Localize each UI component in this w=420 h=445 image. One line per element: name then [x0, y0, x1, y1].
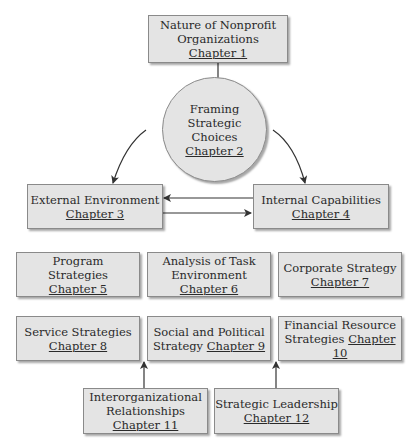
node-chapter-12: Strategic Leadership Chapter 12	[214, 388, 339, 434]
arrow-ch2-ch4	[273, 130, 305, 183]
node-label: Environment	[171, 268, 247, 282]
node-label: Strategic	[188, 116, 242, 130]
node-label: Nature of Nonprofit	[160, 18, 276, 32]
node-label: Service Strategies	[24, 325, 131, 339]
chapter-link: Chapter 5	[49, 282, 107, 296]
node-label-wrap: Strategies Chapter 10	[279, 332, 401, 360]
node-label: Organizations	[177, 32, 259, 46]
chapter-link: Chapter 1	[189, 46, 247, 60]
node-chapter-9: Social and Political Strategy Chapter 9	[147, 316, 271, 361]
arrow-ch2-ch3	[113, 130, 146, 183]
node-label: Strategy	[153, 339, 203, 353]
node-label: Strategies	[284, 332, 344, 346]
node-chapter-6: Analysis of Task Environment Chapter 6	[147, 252, 271, 297]
node-chapter-2: Framing Strategic Choices Chapter 2	[162, 77, 267, 182]
node-label: Financial Resource	[284, 318, 396, 332]
chapter-link: Chapter 4	[292, 207, 350, 221]
node-label: Corporate Strategy	[283, 261, 396, 275]
chapter-link: Chapter 11	[113, 418, 179, 432]
node-label: Relationships	[106, 404, 185, 418]
node-chapter-7: Corporate Strategy Chapter 7	[278, 252, 402, 297]
node-label: Social and Political	[153, 325, 264, 339]
node-chapter-5: Program Strategies Chapter 5	[16, 252, 140, 297]
chapter-link: Chapter 12	[244, 411, 310, 425]
chapter-link: Chapter 3	[66, 207, 124, 221]
node-chapter-10: Financial Resource Strategies Chapter 10	[278, 316, 402, 361]
node-chapter-4: Internal Capabilities Chapter 4	[253, 184, 389, 229]
chapter-link: Chapter 6	[180, 282, 238, 296]
node-label: Program	[53, 254, 104, 268]
chapter-link: Chapter 7	[311, 275, 369, 289]
node-chapter-1: Nature of Nonprofit Organizations Chapte…	[148, 15, 288, 63]
node-chapter-11: Interorganizational Relationships Chapte…	[83, 388, 208, 434]
node-label: Framing	[190, 102, 240, 116]
node-chapter-3: External Environment Chapter 3	[27, 184, 163, 229]
node-label: Analysis of Task	[162, 254, 255, 268]
chapter-link: Chapter 2	[185, 144, 243, 158]
chapter-link: Chapter 9	[207, 339, 265, 353]
node-label: Interorganizational	[89, 390, 202, 404]
node-chapter-8: Service Strategies Chapter 8	[16, 316, 140, 361]
node-label: Strategic Leadership	[215, 397, 338, 411]
node-label: Strategies	[48, 268, 108, 282]
node-label: Choices	[192, 130, 238, 144]
node-label: External Environment	[31, 193, 160, 207]
chapter-link: Chapter 8	[49, 339, 107, 353]
node-label: Internal Capabilities	[261, 193, 381, 207]
node-label-wrap: Strategy Chapter 9	[153, 339, 265, 353]
